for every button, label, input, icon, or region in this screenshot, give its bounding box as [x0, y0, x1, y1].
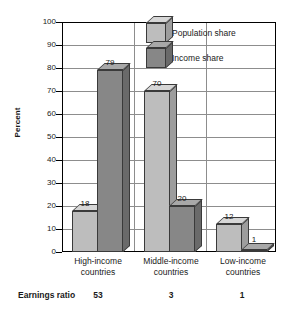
cube-front-face — [146, 48, 166, 68]
y-tick-label-80: 80 — [30, 64, 56, 72]
y-tick-label-90: 90 — [30, 41, 56, 49]
category-label-line1: Low-income — [203, 256, 283, 267]
category-label-middle-income: Middle-income countries — [130, 256, 212, 277]
income-share-cube-icon — [146, 48, 166, 68]
y-tick-label-100: 100 — [30, 18, 56, 26]
earnings-ratio-value-middle-income: 3 — [151, 290, 191, 300]
legend-item-income-share: Income share — [146, 48, 224, 68]
category-label-line1: High-income — [58, 256, 138, 267]
earnings-ratio-label: Earnings ratio — [18, 290, 75, 300]
bar-front-face — [97, 70, 123, 252]
cube-front-face — [146, 23, 166, 43]
y-tick-label-50: 50 — [30, 133, 56, 141]
y-tick-label-60: 60 — [30, 110, 56, 118]
bar-middle-income-population-share — [144, 91, 170, 252]
category-label-line1: Middle-income — [130, 256, 212, 267]
category-label-line2: countries — [130, 267, 212, 278]
category-label-high-income: High-income countries — [58, 256, 138, 277]
bar-high-income-population-share — [72, 211, 98, 252]
bar-middle-income-income-share — [169, 206, 195, 252]
y-tick-label-70: 70 — [30, 87, 56, 95]
bar-low-income-income-share — [241, 250, 267, 252]
bar-front-face — [72, 211, 98, 252]
bar-value-low-income-income-share: 1 — [233, 236, 275, 244]
bar-chart: Percent 100 90 80 70 60 50 40 30 20 10 0 — [0, 0, 294, 311]
legend-item-population-share: Population share — [146, 23, 236, 43]
bar-side-face — [195, 200, 202, 252]
y-axis-title: Percent — [13, 93, 22, 153]
y-tick-label-10: 10 — [30, 225, 56, 233]
y-tick-label-0: 0 — [30, 248, 56, 256]
y-tick-label-40: 40 — [30, 156, 56, 164]
legend-label-income-share: Income share — [172, 53, 224, 63]
y-tick-mark — [56, 252, 62, 253]
bar-value-high-income-income-share: 79 — [89, 59, 131, 67]
population-share-cube-icon — [146, 23, 166, 43]
legend-label-population-share: Population share — [172, 28, 236, 38]
category-label-low-income: Low-income countries — [203, 256, 283, 277]
category-separator — [134, 23, 135, 251]
cube-side-face — [166, 17, 173, 43]
y-tick-label-30: 30 — [30, 179, 56, 187]
bar-side-face — [123, 64, 130, 252]
y-tick-label-20: 20 — [30, 202, 56, 210]
bar-value-low-income-population-share: 12 — [208, 213, 250, 221]
bar-value-middle-income-income-share: 20 — [161, 195, 203, 203]
cube-side-face — [166, 42, 173, 68]
category-label-line2: countries — [203, 267, 283, 278]
earnings-ratio-value-low-income: 1 — [222, 290, 262, 300]
category-label-line2: countries — [58, 267, 138, 278]
bar-front-face — [144, 91, 170, 252]
bar-high-income-income-share — [97, 70, 123, 252]
bar-front-face — [169, 206, 195, 252]
bar-value-middle-income-population-share: 70 — [136, 80, 178, 88]
earnings-ratio-value-high-income: 53 — [78, 290, 118, 300]
gridline — [63, 68, 275, 69]
bar-front-face — [241, 250, 267, 252]
